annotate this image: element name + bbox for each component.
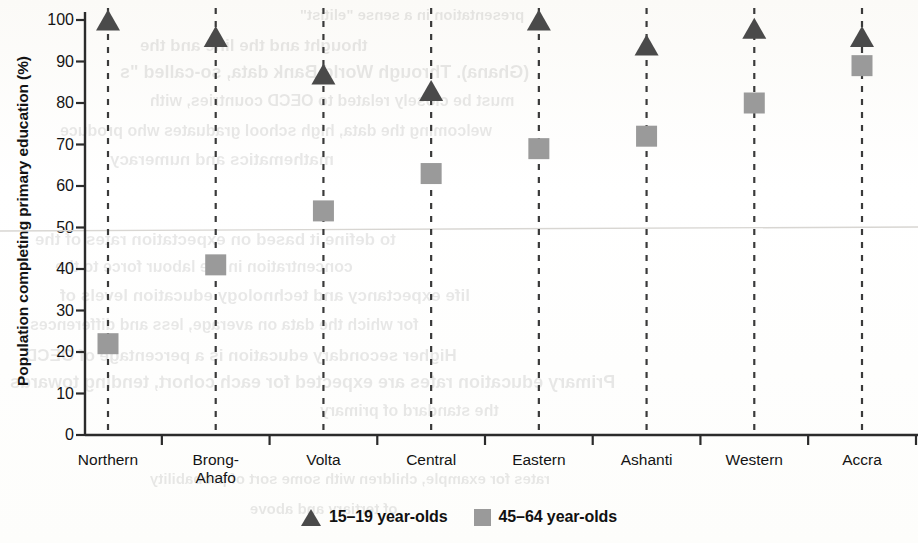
x-axis-category-label: Eastern <box>512 451 565 469</box>
data-point-square-45-64 <box>528 138 549 159</box>
x-axis-category-label: Brong- Ahafo <box>192 451 239 488</box>
data-point-square-45-64 <box>421 163 442 184</box>
data-point-triangle-15-19 <box>527 10 551 31</box>
data-point-square-45-64 <box>98 333 119 354</box>
legend-label: 15–19 year-olds <box>329 508 448 526</box>
data-point-square-45-64 <box>744 93 765 114</box>
triangle-marker-icon <box>301 509 321 526</box>
legend-entry[interactable]: 45–64 year-olds <box>474 508 618 526</box>
data-point-square-45-64 <box>313 200 334 221</box>
plot-svg <box>0 0 918 500</box>
data-point-triangle-15-19 <box>96 10 120 31</box>
scan-artifact-line <box>0 227 918 231</box>
x-axis-category-label: Ashanti <box>621 451 673 469</box>
legend-label: 45–64 year-olds <box>499 508 618 526</box>
data-point-square-45-64 <box>852 55 873 76</box>
x-axis-category-label: Central <box>406 451 456 469</box>
x-axis-category-label: Volta <box>306 451 340 469</box>
x-axis-category-label: Accra <box>842 451 882 469</box>
chart-plot-area: Population completing primary education … <box>0 0 918 543</box>
data-point-triangle-15-19 <box>311 63 335 84</box>
x-axis-category-label: Northern <box>78 451 138 469</box>
data-point-triangle-15-19 <box>204 26 228 47</box>
chart-legend: 15–19 year-olds45–64 year-olds <box>0 508 918 526</box>
data-point-triangle-15-19 <box>419 80 443 101</box>
data-point-triangle-15-19 <box>742 18 766 39</box>
legend-entry[interactable]: 15–19 year-olds <box>301 508 448 526</box>
chart-figure: presentation in a sense "elitist"thought… <box>0 0 918 543</box>
data-point-square-45-64 <box>636 126 657 147</box>
square-marker-icon <box>474 509 491 526</box>
data-point-triangle-15-19 <box>850 26 874 47</box>
data-point-square-45-64 <box>205 254 226 275</box>
data-point-triangle-15-19 <box>635 34 659 55</box>
x-axis-category-label: Western <box>726 451 783 469</box>
